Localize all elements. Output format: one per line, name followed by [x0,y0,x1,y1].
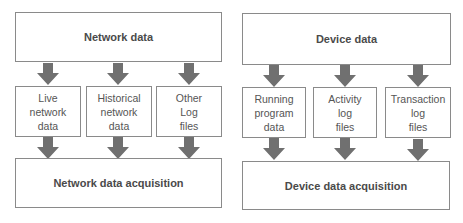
arrow-down-icon [334,65,356,87]
other-log-files-label: Other Log files [176,91,202,133]
historical-network-data-label: Historical network data [97,91,140,133]
network-data-label: Network data [84,31,153,43]
activity-log-files-box: Activity log files [313,87,377,138]
network-data-box: Network data [15,12,222,62]
running-program-data-label: Running program data [254,92,293,134]
device-data-acquisition-box: Device data acquisition [242,161,450,210]
transaction-log-files-label: Transaction log files [391,92,445,134]
arrow-down-icon [107,137,129,159]
arrow-down-icon [178,137,200,159]
arrow-down-icon [107,63,129,85]
transaction-log-files-box: Transaction log files [385,87,451,138]
device-data-acquisition-label: Device data acquisition [285,180,407,192]
arrow-down-icon [407,139,429,161]
arrow-down-icon [37,63,59,85]
arrow-down-icon [263,138,285,160]
live-network-data-label: Live network data [30,91,67,133]
network-data-acquisition-label: Network data acquisition [53,177,183,189]
arrow-down-icon [407,65,429,87]
historical-network-data-box: Historical network data [86,86,152,137]
arrow-down-icon [334,138,356,160]
network-data-acquisition-box: Network data acquisition [15,158,222,208]
device-data-box: Device data [242,13,451,65]
activity-log-files-label: Activity log files [328,92,361,134]
arrow-down-icon [178,63,200,85]
arrow-down-icon [37,137,59,159]
other-log-files-box: Other Log files [156,86,222,137]
running-program-data-box: Running program data [242,87,306,138]
device-data-label: Device data [316,33,377,45]
live-network-data-box: Live network data [15,86,81,137]
arrow-down-icon [263,65,285,87]
